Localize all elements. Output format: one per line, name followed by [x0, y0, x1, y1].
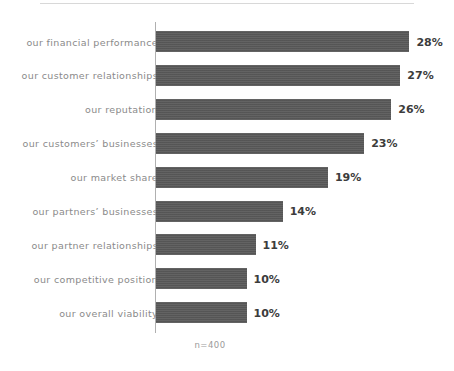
bar-fill	[156, 133, 364, 154]
bar-category-label: our market share	[71, 172, 158, 183]
sample-size-note: n=400	[155, 340, 265, 350]
bar-track	[156, 65, 400, 86]
bar-category-label: our customers’ businesses	[23, 138, 158, 149]
bar-fill	[156, 31, 409, 52]
bar-category-label: our partner relationships	[31, 239, 158, 250]
bar-track	[156, 31, 409, 52]
bar-category-label: our financial performance	[26, 36, 158, 47]
bar-fill	[156, 302, 247, 323]
bar-fill	[156, 268, 247, 289]
bar-track	[156, 133, 364, 154]
bar-row: our customers’ businesses23%	[0, 133, 454, 154]
bar-row: our partner relationships11%	[0, 234, 454, 255]
bar-row: our overall viability10%	[0, 302, 454, 323]
bar-track	[156, 234, 256, 255]
bar-value-label: 14%	[290, 205, 316, 218]
bar-row: our partners’ businesses14%	[0, 201, 454, 222]
bar-value-label: 27%	[407, 69, 433, 82]
bar-value-label: 10%	[254, 306, 280, 319]
bar-track	[156, 268, 247, 289]
bar-fill	[156, 234, 256, 255]
bar-value-label: 23%	[371, 137, 397, 150]
bar-value-label: 26%	[398, 103, 424, 116]
bar-value-label: 28%	[416, 35, 442, 48]
bar-fill	[156, 99, 391, 120]
bar-category-label: our customer relationships	[22, 70, 158, 81]
bar-fill	[156, 201, 283, 222]
bar-fill	[156, 65, 400, 86]
bar-fill	[156, 167, 328, 188]
bar-track	[156, 99, 391, 120]
horizontal-bar-chart: our financial performance28%our customer…	[0, 0, 454, 371]
bar-track	[156, 201, 283, 222]
bar-category-label: our reputation	[85, 104, 158, 115]
bar-row: our financial performance28%	[0, 31, 454, 52]
bar-value-label: 10%	[254, 272, 280, 285]
bar-track	[156, 167, 328, 188]
bar-category-label: our competitive position	[34, 273, 158, 284]
bar-row: our customer relationships27%	[0, 65, 454, 86]
bar-value-label: 11%	[263, 238, 289, 251]
bar-track	[156, 302, 247, 323]
bar-row: our reputation26%	[0, 99, 454, 120]
bar-value-label: 19%	[335, 171, 361, 184]
bar-row: our competitive position10%	[0, 268, 454, 289]
bar-category-label: our partners’ businesses	[32, 206, 158, 217]
bar-category-label: our overall viability	[59, 307, 158, 318]
bar-row: our market share19%	[0, 167, 454, 188]
